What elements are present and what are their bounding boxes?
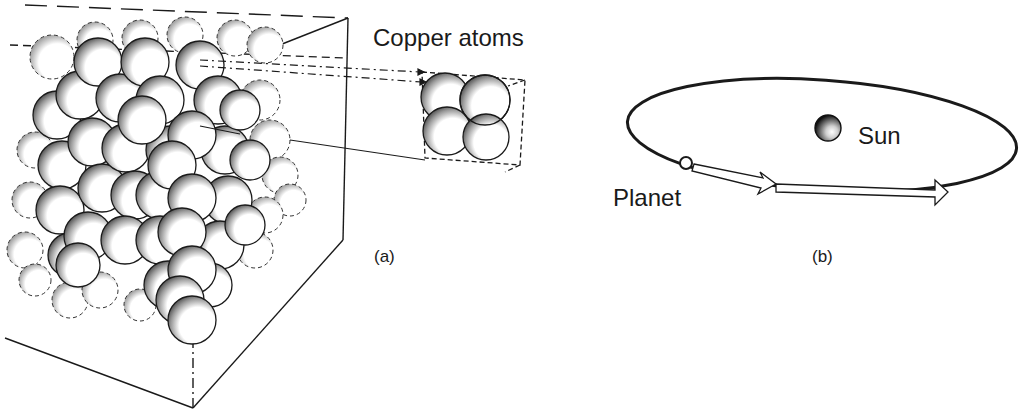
cube-top-right-edge <box>272 18 348 48</box>
orbit-arrow-1 <box>692 164 776 194</box>
planet-label: Planet <box>613 184 681 212</box>
cube-right-edge <box>343 18 348 240</box>
planet-icon <box>680 157 692 169</box>
sun-label: Sun <box>858 122 901 150</box>
copper-atoms-label: Copper atoms <box>373 24 524 52</box>
diagram-canvas <box>0 0 1022 416</box>
panel-a-caption: (a) <box>374 247 395 267</box>
cube-top-edge <box>25 5 348 18</box>
planet-orbit <box>624 67 1021 205</box>
panel-b-caption: (b) <box>812 247 833 267</box>
cube-bottom-left-edge <box>5 338 193 408</box>
orbit-arrow-2 <box>776 180 948 205</box>
sun-icon <box>815 115 841 141</box>
magnified-copper-cell <box>421 72 525 172</box>
